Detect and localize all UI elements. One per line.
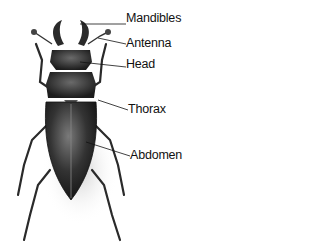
label-mandibles: Mandibles (126, 11, 181, 25)
label-antenna: Antenna (126, 36, 171, 50)
label-abdomen: Abdomen (130, 148, 182, 162)
label-head: Head (126, 57, 155, 71)
label-thorax: Thorax (128, 102, 166, 116)
